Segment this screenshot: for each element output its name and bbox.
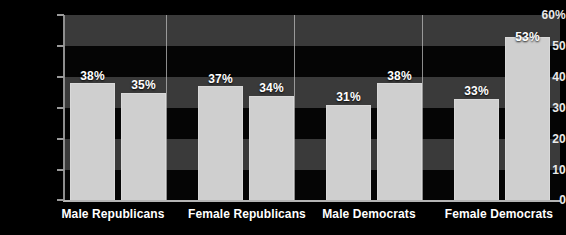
bar-value-male-democrats-1: 31% bbox=[326, 91, 371, 103]
band-40-50 bbox=[65, 46, 560, 77]
bar-female-republicans-34 bbox=[249, 96, 294, 201]
bar-male-republicans-35 bbox=[121, 93, 166, 202]
y-tick-label-20: 20 bbox=[514, 133, 566, 145]
bar-value-female-republicans-1: 37% bbox=[198, 73, 243, 85]
bar-value-male-republicans-2: 35% bbox=[121, 79, 166, 91]
category-label-male-democrats: Male Democrats bbox=[316, 207, 422, 221]
y-tick-mark-10 bbox=[57, 169, 64, 171]
bar-value-female-democrats-1: 33% bbox=[454, 85, 499, 97]
bar-value-male-republicans-1: 38% bbox=[70, 70, 115, 82]
bar-male-democrats-38 bbox=[377, 83, 422, 201]
y-tick-label-0: 0 bbox=[514, 194, 566, 206]
y-tick-mark-0 bbox=[57, 199, 64, 201]
x-axis-line bbox=[63, 200, 560, 202]
y-tick-mark-20 bbox=[57, 138, 64, 140]
y-tick-label-30: 30 bbox=[514, 102, 566, 114]
bar-female-democrats-33 bbox=[454, 99, 499, 201]
plot-area bbox=[65, 15, 560, 201]
group-separator-1 bbox=[166, 15, 167, 201]
category-label-male-republicans: Male Republicans bbox=[60, 207, 166, 221]
bar-male-democrats-31 bbox=[326, 105, 371, 201]
y-tick-mark-30 bbox=[57, 107, 64, 109]
bar-value-female-democrats-2: 53% bbox=[505, 31, 550, 43]
bar-chart: 60% 50 40 30 20 10 0 38% 35% 37% 34% 31%… bbox=[0, 0, 566, 235]
y-tick-mark-60 bbox=[57, 14, 64, 16]
y-tick-label-10: 10 bbox=[514, 164, 566, 176]
group-separator-2 bbox=[294, 15, 295, 201]
y-tick-mark-50 bbox=[57, 45, 64, 47]
bar-female-republicans-37 bbox=[198, 86, 243, 201]
group-separator-3 bbox=[422, 15, 423, 201]
bar-male-republicans-38 bbox=[70, 83, 115, 201]
bar-value-female-republicans-2: 34% bbox=[249, 82, 294, 94]
category-label-female-republicans: Female Republicans bbox=[188, 207, 294, 221]
bar-value-male-democrats-2: 38% bbox=[377, 70, 422, 82]
y-tick-label-60: 60% bbox=[514, 9, 566, 21]
bar-female-democrats-53 bbox=[505, 37, 550, 201]
band-50-60 bbox=[65, 15, 560, 46]
category-label-female-democrats: Female Democrats bbox=[444, 207, 554, 221]
y-tick-mark-40 bbox=[57, 76, 64, 78]
y-tick-label-40: 40 bbox=[514, 71, 566, 83]
